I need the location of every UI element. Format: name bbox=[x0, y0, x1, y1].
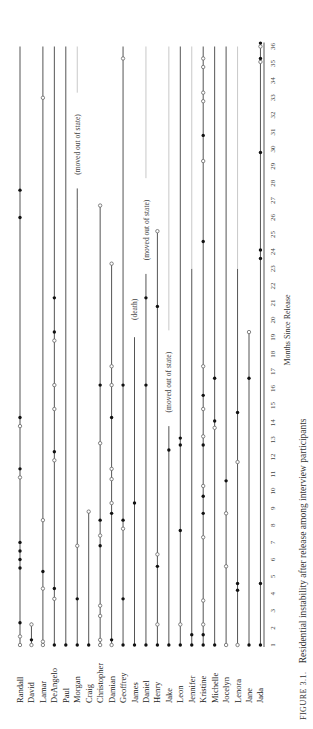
participant-name: Christopher bbox=[95, 663, 105, 703]
timeline-deangelo bbox=[53, 47, 56, 647]
timeline-jennifer bbox=[190, 47, 193, 647]
participant-name: David bbox=[26, 681, 36, 703]
month-tick: 36 bbox=[269, 43, 277, 51]
open-marker bbox=[41, 643, 44, 646]
open-marker bbox=[110, 477, 113, 480]
filled-marker bbox=[202, 643, 205, 646]
participant-name: James bbox=[130, 682, 140, 703]
open-marker bbox=[76, 544, 79, 547]
open-marker bbox=[202, 65, 205, 68]
timeline-kristine bbox=[202, 47, 205, 647]
open-marker bbox=[110, 643, 113, 646]
filled-marker bbox=[156, 565, 159, 568]
open-marker bbox=[110, 501, 113, 504]
filled-marker bbox=[18, 467, 21, 470]
open-marker bbox=[18, 635, 21, 638]
timeline-note: (death) bbox=[130, 298, 139, 320]
participant-name: Paul bbox=[61, 687, 71, 703]
filled-marker bbox=[18, 541, 21, 544]
filled-marker bbox=[236, 582, 239, 585]
open-marker bbox=[202, 159, 205, 162]
timeline-jane bbox=[247, 330, 250, 646]
filled-marker bbox=[53, 330, 56, 333]
participant-name: Michelle bbox=[210, 673, 220, 703]
open-marker bbox=[87, 510, 90, 513]
open-marker bbox=[202, 435, 205, 438]
timeline-lenora bbox=[236, 47, 239, 647]
caption-text: Residential instability after release am… bbox=[298, 418, 308, 663]
open-marker bbox=[30, 623, 33, 626]
open-marker bbox=[30, 643, 33, 646]
filled-marker bbox=[64, 643, 67, 646]
open-marker bbox=[121, 57, 124, 60]
open-marker bbox=[98, 604, 101, 607]
filled-marker bbox=[41, 570, 44, 573]
open-marker bbox=[53, 383, 56, 386]
open-marker bbox=[202, 407, 205, 410]
month-tick: 26 bbox=[269, 214, 277, 222]
timeline-jake: (moved out of state) bbox=[164, 47, 173, 647]
month-tick: 14 bbox=[269, 419, 277, 427]
month-tick: 22 bbox=[269, 282, 277, 290]
month-tick: 4 bbox=[269, 591, 277, 595]
filled-marker bbox=[213, 643, 216, 646]
filled-marker bbox=[179, 643, 182, 646]
filled-marker bbox=[259, 257, 262, 260]
filled-marker bbox=[190, 633, 193, 636]
participant-timelines: (moved out of state)(death)(moved out of… bbox=[18, 41, 262, 646]
open-marker bbox=[156, 229, 159, 232]
participant-name: Lamar bbox=[38, 681, 48, 703]
filled-marker bbox=[259, 582, 262, 585]
filled-marker bbox=[259, 151, 262, 154]
timeline-michelle bbox=[213, 47, 216, 647]
month-tick: 2 bbox=[269, 626, 277, 630]
month-tick: 24 bbox=[269, 248, 277, 256]
participant-name: Randall bbox=[15, 676, 25, 703]
month-tick: 15 bbox=[269, 402, 277, 410]
filled-marker bbox=[179, 436, 182, 439]
open-marker bbox=[202, 57, 205, 60]
participant-names: RandallDavidLamarDeAngeloPaulMorganCraig… bbox=[15, 663, 265, 703]
filled-marker bbox=[202, 394, 205, 397]
month-tick: 13 bbox=[269, 436, 277, 444]
month-tick: 27 bbox=[269, 196, 277, 204]
filled-marker bbox=[224, 479, 227, 482]
filled-marker bbox=[156, 643, 159, 646]
participant-name: Morgan bbox=[72, 675, 82, 703]
timeline-lamar bbox=[41, 47, 44, 647]
filled-marker bbox=[121, 518, 124, 521]
filled-marker bbox=[202, 512, 205, 515]
open-marker bbox=[202, 536, 205, 539]
open-marker bbox=[121, 527, 124, 530]
filled-marker bbox=[144, 643, 147, 646]
filled-marker bbox=[167, 643, 170, 646]
month-tick: 10 bbox=[269, 487, 277, 495]
month-tick: 35 bbox=[269, 60, 277, 68]
open-marker bbox=[53, 339, 56, 342]
timeline-david bbox=[30, 623, 33, 647]
open-marker bbox=[259, 60, 262, 63]
open-marker bbox=[18, 476, 21, 479]
filled-marker bbox=[236, 411, 239, 414]
filled-marker bbox=[30, 638, 33, 641]
month-tick: 11 bbox=[269, 470, 277, 477]
month-tick: 8 bbox=[269, 523, 277, 527]
axis-title: Months Since Release bbox=[283, 294, 292, 366]
filled-marker bbox=[202, 443, 205, 446]
participant-name: Leon bbox=[175, 685, 185, 703]
open-marker bbox=[53, 459, 56, 462]
filled-marker bbox=[179, 529, 182, 532]
month-tick: 25 bbox=[269, 231, 277, 239]
months-axis: 1234567891011121314151617181920212223242… bbox=[264, 43, 277, 648]
filled-marker bbox=[18, 216, 21, 219]
timeline-craig bbox=[87, 510, 90, 647]
filled-marker bbox=[18, 549, 21, 552]
participant-name: Henry bbox=[152, 681, 162, 703]
filled-marker bbox=[213, 419, 216, 422]
open-marker bbox=[259, 45, 262, 48]
caption-prefix: FIGURE 3.1. bbox=[299, 672, 308, 720]
month-tick: 23 bbox=[269, 265, 277, 273]
filled-marker bbox=[202, 134, 205, 137]
filled-marker bbox=[110, 638, 113, 641]
open-marker bbox=[98, 534, 101, 537]
